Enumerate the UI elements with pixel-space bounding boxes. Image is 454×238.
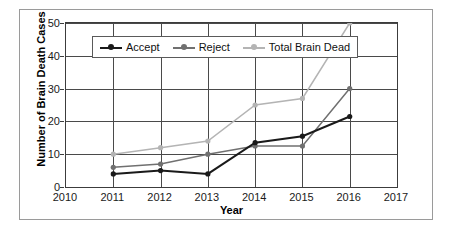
data-point-marker xyxy=(205,138,210,143)
y-tick-label: 40 xyxy=(34,51,60,62)
data-point-marker xyxy=(300,96,305,101)
x-tick-label: 2017 xyxy=(374,191,418,203)
y-tick-mark xyxy=(60,56,64,57)
legend-marker-icon xyxy=(243,43,265,52)
legend-entry: Reject xyxy=(173,41,230,53)
data-point-marker xyxy=(111,152,116,157)
y-tick-mark xyxy=(60,154,64,155)
x-axis-title: Year xyxy=(65,204,398,216)
x-tick-label: 2010 xyxy=(43,191,87,203)
y-tick-label: 50 xyxy=(34,18,60,29)
data-point-marker xyxy=(158,168,163,173)
chart-legend: AcceptRejectTotal Brain Dead xyxy=(92,36,358,58)
y-tick-mark xyxy=(60,121,64,122)
x-tick-label: 2012 xyxy=(138,191,182,203)
data-point-marker xyxy=(111,171,116,176)
legend-entry: Total Brain Dead xyxy=(243,41,350,53)
x-tick-label: 2015 xyxy=(279,191,323,203)
x-tick-label: 2011 xyxy=(90,191,134,203)
data-point-marker xyxy=(253,102,258,107)
x-tick-label: 2013 xyxy=(185,191,229,203)
data-point-marker xyxy=(111,165,116,170)
x-tick-label: 2016 xyxy=(327,191,371,203)
y-tick-label: 20 xyxy=(34,116,60,127)
data-point-marker xyxy=(300,143,305,148)
data-point-marker xyxy=(347,114,352,119)
data-point-marker xyxy=(347,86,352,91)
x-tick-label: 2014 xyxy=(232,191,276,203)
y-tick-label: 10 xyxy=(34,149,60,160)
legend-entry: Accept xyxy=(100,41,160,53)
y-tick-mark xyxy=(60,89,64,90)
legend-marker-icon xyxy=(100,43,122,52)
data-point-marker xyxy=(205,171,210,176)
legend-label: Reject xyxy=(199,41,230,53)
data-point-marker xyxy=(158,161,163,166)
chart-figure: Number of Brain Death Cases 01020304050 … xyxy=(19,9,433,220)
x-axis-tick-labels: 20102011201220132014201520162017 xyxy=(65,191,398,205)
data-point-marker xyxy=(158,145,163,150)
y-axis-tick-labels: 01020304050 xyxy=(30,22,60,188)
data-point-marker xyxy=(253,140,258,145)
y-tick-mark xyxy=(60,187,64,188)
y-tick-mark xyxy=(60,23,64,24)
y-tick-label: 30 xyxy=(34,84,60,95)
series-line xyxy=(113,89,349,168)
data-point-marker xyxy=(205,152,210,157)
data-point-marker xyxy=(300,134,305,139)
legend-label: Accept xyxy=(126,41,160,53)
legend-marker-icon xyxy=(173,43,195,52)
legend-label: Total Brain Dead xyxy=(269,41,350,53)
